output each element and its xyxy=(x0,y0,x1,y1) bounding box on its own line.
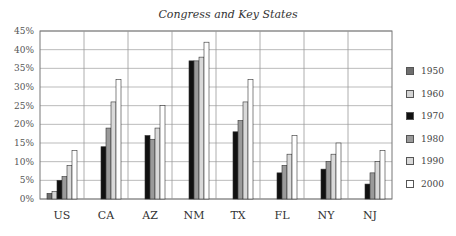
x-category-label: NY xyxy=(318,209,336,222)
bar-fl-1980 xyxy=(282,165,287,199)
bar-az-1980 xyxy=(150,139,155,199)
y-tick-label: 40% xyxy=(14,45,34,55)
legend-item-1960: 1960 xyxy=(406,83,444,106)
bar-nm-1990 xyxy=(199,57,204,199)
bar-tx-1980 xyxy=(238,121,243,199)
bar-fl-1990 xyxy=(287,154,292,199)
y-tick-label: 35% xyxy=(14,63,34,73)
x-category-label: FL xyxy=(275,209,291,222)
bar-us-1990 xyxy=(67,165,72,199)
y-tick-label: 20% xyxy=(14,119,34,129)
bar-tx-1990 xyxy=(243,102,248,199)
bar-az-1990 xyxy=(155,128,160,199)
y-tick-label: 0% xyxy=(20,194,35,204)
legend-swatch xyxy=(406,157,414,165)
bar-us-1980 xyxy=(62,177,67,199)
bar-fl-2000 xyxy=(292,136,297,199)
y-tick-label: 5% xyxy=(20,175,35,185)
bar-us-1970 xyxy=(57,180,62,199)
bar-ny-2000 xyxy=(336,143,341,199)
bar-nj-1990 xyxy=(375,162,380,199)
legend-item-1980: 1980 xyxy=(406,128,444,151)
bar-tx-1970 xyxy=(233,132,238,199)
bar-ca-1980 xyxy=(106,128,111,199)
y-tick-label: 15% xyxy=(14,138,34,148)
bar-nj-1970 xyxy=(365,184,370,199)
chart-legend: 195019601970198019902000 xyxy=(406,60,444,195)
bar-ny-1970 xyxy=(321,169,326,199)
bar-nj-1980 xyxy=(370,173,375,199)
legend-label: 1990 xyxy=(421,156,444,166)
x-category-label: US xyxy=(54,209,71,222)
bar-tx-2000 xyxy=(248,80,253,199)
y-tick-label: 25% xyxy=(14,101,34,111)
bar-nm-1970 xyxy=(189,61,194,199)
bar-az-2000 xyxy=(160,106,165,199)
x-category-label: NM xyxy=(184,209,205,222)
bar-nm-2000 xyxy=(204,42,209,199)
legend-swatch xyxy=(406,135,414,143)
bar-ca-1970 xyxy=(101,147,106,199)
legend-item-1970: 1970 xyxy=(406,105,444,128)
bar-ny-1990 xyxy=(331,154,336,199)
y-tick-label: 45% xyxy=(14,26,34,36)
y-tick-label: 30% xyxy=(14,82,34,92)
bar-chart: 0%5%10%15%20%25%30%35%40%45%USCAAZNMTXFL… xyxy=(0,0,456,236)
bar-fl-1970 xyxy=(277,173,282,199)
x-category-label: NJ xyxy=(363,209,377,222)
x-category-label: AZ xyxy=(141,209,158,222)
legend-item-1990: 1990 xyxy=(406,150,444,173)
legend-swatch xyxy=(406,67,414,75)
bar-ca-1990 xyxy=(111,102,116,199)
bar-us-1960 xyxy=(52,192,57,199)
x-category-label: CA xyxy=(98,209,115,222)
legend-label: 1970 xyxy=(421,111,444,121)
legend-swatch xyxy=(406,90,414,98)
bar-us-1950 xyxy=(47,193,52,199)
legend-swatch xyxy=(406,180,414,188)
bar-nj-2000 xyxy=(380,150,385,199)
legend-label: 2000 xyxy=(421,179,444,189)
bar-us-2000 xyxy=(72,150,77,199)
bar-ca-2000 xyxy=(116,80,121,199)
y-tick-label: 10% xyxy=(14,157,34,167)
legend-swatch xyxy=(406,112,414,120)
legend-label: 1950 xyxy=(421,66,444,76)
legend-item-2000: 2000 xyxy=(406,173,444,196)
bar-ny-1980 xyxy=(326,162,331,199)
legend-item-1950: 1950 xyxy=(406,60,444,83)
legend-label: 1960 xyxy=(421,89,444,99)
bar-nm-1980 xyxy=(194,61,199,199)
bar-az-1970 xyxy=(145,136,150,199)
x-category-label: TX xyxy=(230,209,245,222)
legend-label: 1980 xyxy=(421,134,444,144)
